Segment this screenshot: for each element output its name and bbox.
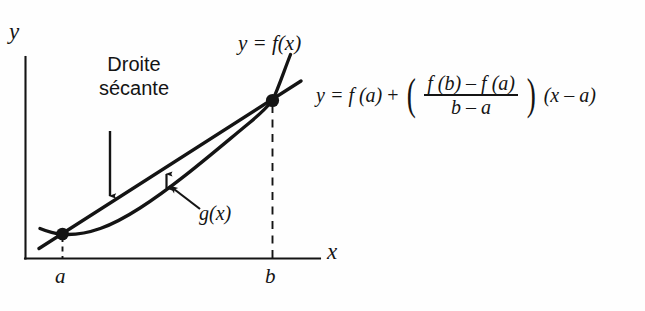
axis-x-label: x <box>327 240 337 263</box>
equation-plus: + <box>387 85 398 105</box>
secant-line-annotation: Droite sécante <box>76 52 192 101</box>
point-a-marker <box>56 228 69 241</box>
equation-fraction: f (b) – f (a) b – a <box>424 73 518 117</box>
equation-lhs: y = <box>316 85 343 105</box>
secant-annotation-line2: sécante <box>76 76 192 100</box>
axis-y-label: y <box>9 20 19 43</box>
secant-annotation-line1: Droite <box>76 52 192 76</box>
x-tick-label-b: b <box>265 266 276 287</box>
equation-numerator: f (b) – f (a) <box>424 73 518 94</box>
figure-canvas <box>0 0 645 311</box>
equation-trailing-factor: (x – a) <box>544 85 596 105</box>
x-tick-label-a: a <box>55 266 66 287</box>
equation-denominator: b – a <box>448 96 494 117</box>
equation-paren-close: ) <box>527 78 536 112</box>
gap-function-label: g(x) <box>199 203 231 223</box>
equation-term-fa: f (a) <box>348 85 382 105</box>
gap-label-leader <box>170 186 200 209</box>
secant-line <box>39 81 301 249</box>
equation-paren-open: ( <box>406 78 415 112</box>
secant-equation: y = f (a) + ( f (b) – f (a) b – a ) (x –… <box>316 73 596 117</box>
secant-line-figure: y x a b Droite sécante y = f(x) g(x) y =… <box>0 0 645 311</box>
point-b-marker <box>266 94 279 107</box>
curve-equation-label: y = f(x) <box>238 33 301 54</box>
